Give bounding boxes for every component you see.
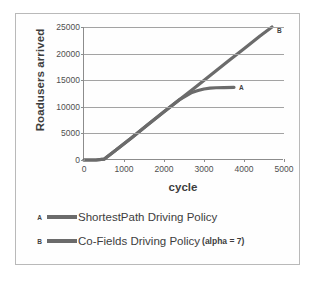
series-line-a <box>84 87 234 160</box>
y-tick-mark <box>81 107 84 108</box>
series-end-label-b: B <box>277 27 282 34</box>
legend-item-b[interactable]: BCo-Fields Driving Policy(alpha = 7) <box>20 229 295 253</box>
series-layer <box>84 27 284 160</box>
x-tick-mark <box>164 159 165 162</box>
y-tick-mark <box>81 27 84 28</box>
legend-swatch-b <box>47 239 77 243</box>
x-tick-label: 1000 <box>115 164 134 174</box>
legend-label-b: Co-Fields Driving Policy <box>78 235 200 247</box>
y-tick-mark <box>81 80 84 81</box>
gridline-horizontal <box>84 107 284 108</box>
x-tick-label: 4000 <box>235 164 254 174</box>
legend-key-a: A <box>20 214 47 221</box>
x-axis-title: cycle <box>83 181 283 193</box>
x-tick-label: 0 <box>82 164 87 174</box>
x-tick-label: 2000 <box>155 164 174 174</box>
y-tick-label: 0 <box>75 155 80 165</box>
legend-swatch-a <box>47 215 77 219</box>
gridline-horizontal <box>84 80 284 81</box>
y-axis-title: Roadusers arrived <box>34 21 46 139</box>
y-tick-label: 5000 <box>61 128 80 138</box>
chart-legend: AShortestPath Driving PolicyBCo-Fields D… <box>20 205 295 253</box>
plot-area: 0500010000150002000025000010002000300040… <box>83 27 283 160</box>
legend-suffix-b: (alpha = 7) <box>202 236 244 246</box>
chart-figure: Roadusers arrived 0500010000150002000025… <box>0 0 316 285</box>
x-tick-label: 5000 <box>275 164 294 174</box>
x-tick-mark <box>84 159 85 162</box>
gridline-horizontal <box>84 54 284 55</box>
series-end-label-a: A <box>239 84 244 91</box>
gridline-horizontal <box>84 133 284 134</box>
y-tick-label: 15000 <box>56 75 80 85</box>
x-tick-mark <box>284 159 285 162</box>
x-tick-mark <box>124 159 125 162</box>
legend-label-a: ShortestPath Driving Policy <box>78 211 217 223</box>
x-tick-mark <box>244 159 245 162</box>
y-tick-mark <box>81 133 84 134</box>
x-tick-mark <box>204 159 205 162</box>
gridline-horizontal <box>84 27 284 28</box>
series-line-b <box>84 27 272 160</box>
y-tick-label: 10000 <box>56 102 80 112</box>
y-tick-label: 20000 <box>56 49 80 59</box>
x-tick-label: 3000 <box>195 164 214 174</box>
legend-item-a[interactable]: AShortestPath Driving Policy <box>20 205 295 229</box>
y-tick-mark <box>81 54 84 55</box>
chart-plot-region: Roadusers arrived 0500010000150002000025… <box>20 18 295 198</box>
legend-key-b: B <box>20 238 47 245</box>
y-tick-label: 25000 <box>56 22 80 32</box>
